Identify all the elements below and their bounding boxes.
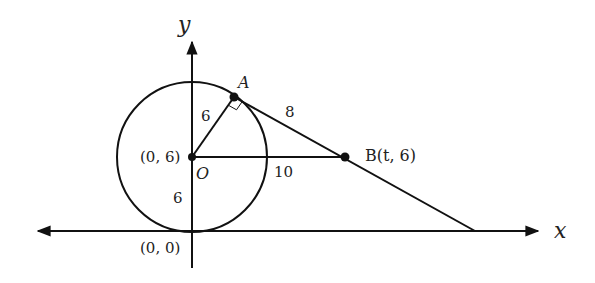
x-axis-label: x	[554, 218, 567, 243]
point-A	[230, 93, 239, 102]
segment-OA	[192, 97, 234, 157]
point-O	[188, 153, 196, 161]
label-center-coord: (0, 6)	[140, 148, 180, 166]
label-AB-length: 8	[285, 103, 295, 121]
label-origin-coord: (0, 0)	[140, 239, 180, 257]
label-O: O	[196, 164, 209, 183]
label-OA-length: 6	[201, 107, 211, 125]
label-OB-length: 10	[274, 163, 293, 181]
point-B	[341, 153, 350, 162]
geometry-diagram: y x A 6 8 (0, 6) O 10 B(t, 6) 6 (0, 0)	[0, 0, 595, 283]
tangent-line	[234, 97, 475, 231]
label-origin-center-length: 6	[173, 189, 183, 207]
label-B: B(t, 6)	[365, 146, 416, 165]
label-A: A	[236, 73, 250, 92]
y-axis-label: y	[177, 12, 191, 37]
